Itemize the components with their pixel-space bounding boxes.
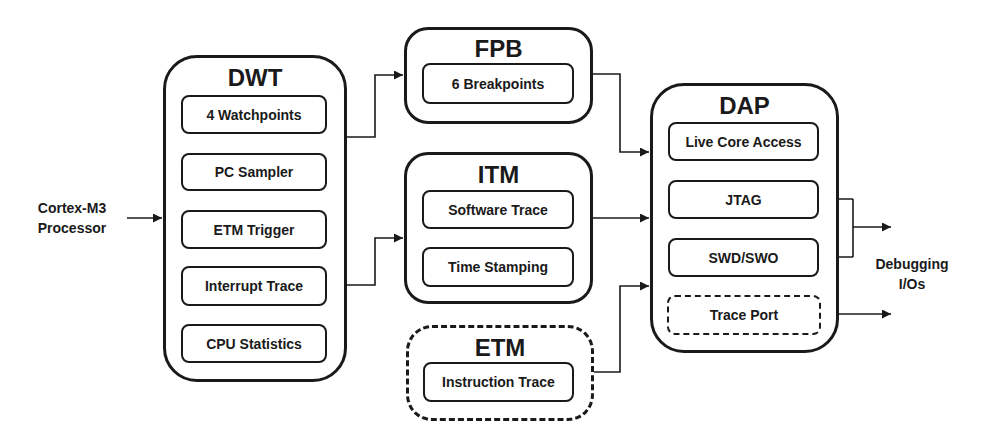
dwt-interrupt-trace: Interrupt Trace <box>181 266 327 306</box>
dap-jtag: JTAG <box>668 180 819 219</box>
dwt-title: DWT <box>166 65 344 91</box>
arrow-dwt-to-itm <box>346 238 403 285</box>
dwt-watchpoints: 4 Watchpoints <box>181 95 327 134</box>
dap-live-core-access: Live Core Access <box>668 122 819 161</box>
dwt-cpu-statistics: CPU Statistics <box>181 324 327 363</box>
input-label-line1: Cortex-M3 <box>22 198 122 218</box>
arrow-fpb-to-dap <box>592 74 649 152</box>
dap-swd-swo: SWD/SWO <box>668 238 819 277</box>
itm-software-trace: Software Trace <box>422 190 574 229</box>
itm-time-stamping: Time Stamping <box>422 247 574 287</box>
etm-title: ETM <box>409 335 591 361</box>
itm-title: ITM <box>407 162 590 188</box>
dwt-pc-sampler: PC Sampler <box>181 153 327 191</box>
debugging-ios-label: Debugging I/Os <box>862 254 962 294</box>
fpb-title: FPB <box>407 36 590 62</box>
etm-instruction-trace: Instruction Trace <box>423 362 574 402</box>
dwt-etm-trigger: ETM Trigger <box>181 210 327 249</box>
dap-title: DAP <box>653 93 836 119</box>
output-label-line1: Debugging <box>862 254 962 274</box>
output-label-line2: I/Os <box>862 274 962 294</box>
cortex-m3-processor-label: Cortex-M3 Processor <box>22 198 122 238</box>
input-label-line2: Processor <box>22 218 122 238</box>
arrow-etm-to-dap <box>594 286 649 372</box>
fpb-breakpoints: 6 Breakpoints <box>422 63 574 104</box>
dap-trace-port: Trace Port <box>667 295 821 335</box>
arrow-dwt-to-fpb <box>346 75 403 137</box>
